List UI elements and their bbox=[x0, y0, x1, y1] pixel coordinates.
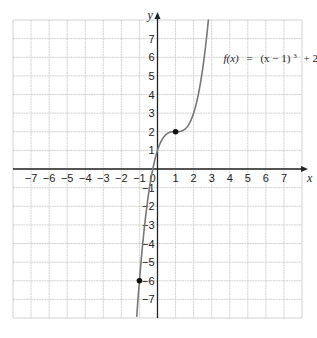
exponent: 3 bbox=[293, 52, 297, 60]
y-axis-label: y bbox=[147, 8, 154, 22]
y-tick-label: 2 bbox=[148, 126, 154, 138]
y-axis-arrow-icon bbox=[155, 12, 161, 19]
y-tick-label: 7 bbox=[148, 33, 154, 45]
y-tick-label: −6 bbox=[142, 275, 155, 287]
x-tick-label: 2 bbox=[191, 172, 197, 184]
y-tick-label: 3 bbox=[148, 107, 154, 119]
function-curve bbox=[137, 19, 209, 316]
y-tick-label: −5 bbox=[142, 256, 155, 268]
data-point bbox=[137, 278, 143, 284]
x-axis-label: x bbox=[306, 171, 313, 185]
function-graph: −7−6−5−4−3−2−101234567 7654321−1−2−3−4−5… bbox=[0, 0, 317, 338]
x-tick-label: −5 bbox=[61, 172, 74, 184]
y-tick-label: 4 bbox=[148, 89, 154, 101]
x-tick-labels: −7−6−5−4−3−2−101234567 bbox=[25, 172, 287, 184]
function-name: f(x) bbox=[223, 52, 239, 65]
x-tick-label: 6 bbox=[263, 172, 269, 184]
x-tick-label: 4 bbox=[227, 172, 233, 184]
function-label: f(x) = (x − 1) 3 + 2 bbox=[223, 48, 317, 65]
x-tick-label: 1 bbox=[173, 172, 179, 184]
x-tick-label: −3 bbox=[97, 172, 110, 184]
y-tick-label: 6 bbox=[148, 51, 154, 63]
y-tick-label: −7 bbox=[142, 293, 155, 305]
x-tick-label: −4 bbox=[79, 172, 92, 184]
x-tick-label: 7 bbox=[281, 172, 287, 184]
data-point bbox=[173, 129, 179, 135]
equals-sign: = bbox=[246, 52, 252, 64]
x-tick-label: −7 bbox=[25, 172, 38, 184]
function-body: (x − 1) bbox=[260, 52, 290, 65]
x-tick-label: 3 bbox=[209, 172, 215, 184]
y-tick-label: 5 bbox=[148, 70, 154, 82]
x-tick-label: 5 bbox=[245, 172, 251, 184]
y-tick-label: 1 bbox=[148, 144, 154, 156]
x-tick-label: −6 bbox=[43, 172, 56, 184]
function-tail: + 2 bbox=[303, 52, 317, 64]
x-tick-label: −2 bbox=[115, 172, 128, 184]
